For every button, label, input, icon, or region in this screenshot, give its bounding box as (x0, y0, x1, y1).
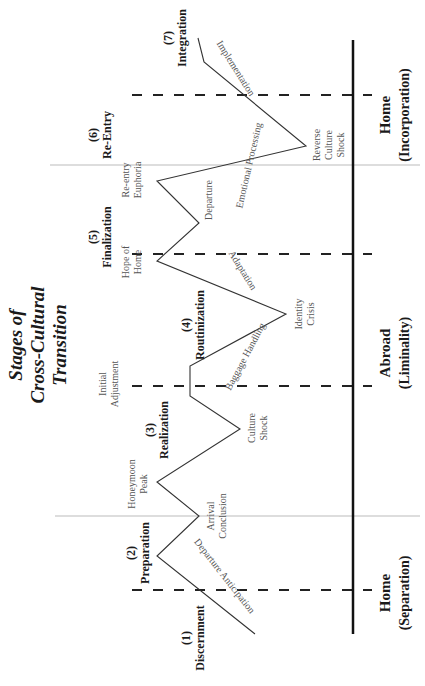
stage-2-number: (2) (124, 546, 138, 560)
region-3-main: Home (377, 96, 393, 135)
stage-6-name: Re-Entry (100, 111, 114, 159)
stage-7-number: (7) (161, 31, 175, 45)
point-reverse: Reverse (311, 128, 322, 161)
segment-baggage-handling: Baggage Handling (223, 321, 268, 392)
point-identity: Identity (293, 298, 304, 329)
region-1-sub: (Separation) (397, 555, 413, 630)
stage-4-number: (4) (179, 318, 193, 332)
region-3-sub: (Incorporation) (397, 68, 413, 162)
point-shock: Shock (258, 416, 269, 441)
point-reverse-culture: Culture (323, 129, 334, 160)
stage-5-name: Finalization (100, 206, 114, 268)
point-peak: Peak (138, 474, 149, 493)
point-reverse-shock: Shock (335, 133, 346, 158)
point-honeymoon: Honeymoon (126, 459, 137, 508)
stage-5-number: (5) (86, 230, 100, 244)
title-line-2: Cross-Cultural (27, 286, 48, 404)
point-crisis: Crisis (305, 302, 316, 325)
cross-cultural-transition-diagram: Stages of Cross-Cultural Transition (1) … (0, 0, 425, 686)
region-1-main: Home (377, 574, 393, 613)
region-2-sub: (Liminality) (397, 317, 413, 390)
stage-1-number: (1) (179, 631, 193, 645)
title-line-1: Stages of (5, 308, 26, 381)
stage-2-name: Preparation (138, 522, 152, 584)
point-initial: Initial (97, 372, 108, 396)
stage-6-number: (6) (86, 128, 100, 142)
point-culture: Culture (246, 412, 257, 443)
segment-departure-anticipation: Departure Anticipation (192, 536, 257, 615)
point-arrival: Arrival (205, 501, 216, 530)
point-home: Home (132, 249, 143, 274)
point-euphoria: Euphoria (132, 161, 143, 198)
stage-7-name: Integration (175, 9, 189, 67)
stage-3-number: (3) (143, 423, 157, 437)
stage-1-name: Discernment (193, 605, 207, 670)
region-2-main: Abroad (377, 328, 393, 378)
stage-3-name: Realization (157, 401, 171, 459)
point-adjustment: Adjustment (109, 360, 120, 407)
title-line-3: Transition (49, 304, 70, 386)
stage-4-name: Routinization (193, 290, 207, 360)
point-conclusion: Conclusion (217, 493, 228, 539)
transition-curve (157, 38, 306, 634)
point-departure: Departure (203, 179, 214, 220)
point-reentry: Re-entry (120, 163, 131, 198)
point-hope-of: Hope of (120, 245, 131, 278)
